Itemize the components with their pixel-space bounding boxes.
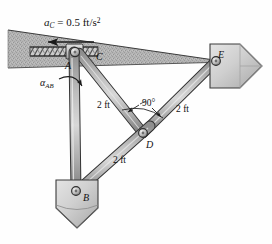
mechanism-figure: aC = 0.5 ft/s2 A C B E D αAB 2 ft 2 ft 2… (0, 0, 272, 244)
label-point-C: C (96, 52, 103, 62)
label-point-B: B (83, 193, 89, 203)
label-angular-acceleration: αAB (40, 78, 54, 89)
pin-joint-B (72, 187, 81, 196)
acceleration-value: = 0.5 ft/s (54, 16, 96, 28)
pin-joint-D (139, 129, 148, 138)
horizontal-slot-guide (30, 47, 98, 56)
acceleration-label: aC = 0.5 ft/s2 (44, 17, 100, 30)
label-right-angle: 90° (142, 99, 155, 109)
pin-joint-A (70, 47, 79, 56)
link-AB (72, 52, 76, 193)
label-point-A: A (65, 61, 71, 71)
label-point-D: D (146, 140, 153, 150)
label-length-DE: 2 ft (176, 105, 189, 115)
acceleration-exponent: 2 (97, 16, 101, 25)
label-length-CD: 2 ft (97, 101, 110, 111)
label-length-BD: 2 ft (113, 156, 126, 166)
label-point-E: E (218, 50, 224, 60)
alpha-subscript: AB (45, 82, 53, 89)
diagram-canvas (0, 0, 272, 244)
